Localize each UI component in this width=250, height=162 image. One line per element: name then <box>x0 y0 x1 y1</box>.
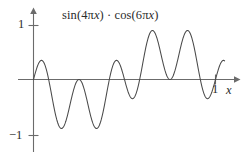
x-axis-tick-label-one: 1 <box>212 83 218 96</box>
plot-canvas <box>0 0 250 162</box>
x-axis-group <box>18 75 241 85</box>
title-middle: ) · cos(6 <box>100 8 143 22</box>
y-axis-tick-label-minus-one: −1 <box>9 129 22 142</box>
x-axis-arrowhead <box>234 76 241 83</box>
y-axis-tick-label-one: 1 <box>18 18 24 31</box>
x-axis-label: x <box>226 84 232 97</box>
function-plot-figure: sin(4πx) · cos(6πx) 1 −1 1 x <box>0 0 250 162</box>
title-sin-open: sin(4 <box>62 8 88 22</box>
title-close-paren: ) <box>154 8 158 22</box>
y-axis-arrowhead <box>30 8 37 15</box>
plot-title: sin(4πx) · cos(6πx) <box>62 9 158 22</box>
